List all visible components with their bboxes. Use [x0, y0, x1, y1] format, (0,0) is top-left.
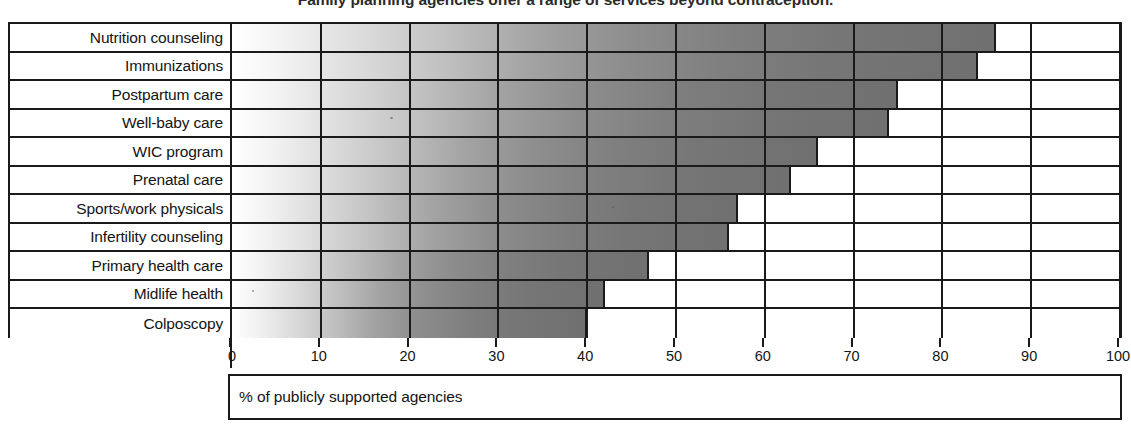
category-cell: Prenatal care	[10, 167, 232, 194]
category-cell: Well-baby care	[10, 110, 232, 137]
category-label: Sports/work physicals	[76, 201, 223, 217]
chart-row: Immunizations	[10, 53, 1120, 82]
gridline	[497, 53, 499, 80]
gridline	[320, 309, 322, 338]
gridline	[1119, 138, 1120, 165]
gridline	[675, 224, 677, 251]
gridline	[853, 167, 855, 194]
gridline	[1030, 110, 1032, 137]
x-tick	[229, 338, 231, 347]
gridline	[1030, 281, 1032, 308]
gridline	[941, 252, 943, 279]
bar	[232, 224, 729, 251]
gridline	[1119, 24, 1120, 51]
gridline	[941, 53, 943, 80]
gridline	[586, 24, 588, 51]
gridline	[675, 138, 677, 165]
chart-figure: Family planning agencies offer a range o…	[0, 0, 1131, 429]
chart-row: Postpartum care	[10, 81, 1120, 110]
gridline	[764, 281, 766, 308]
category-cell: Midlife health	[10, 281, 232, 308]
gridline	[1030, 24, 1032, 51]
gridline	[1030, 138, 1032, 165]
bar-track	[232, 138, 1120, 165]
gridline	[320, 281, 322, 308]
x-axis-label-box: % of publicly supported agencies	[228, 374, 1122, 420]
gridline	[497, 195, 499, 222]
gridline	[941, 224, 943, 251]
category-cell: Primary health care	[10, 252, 232, 279]
gridline	[586, 281, 588, 308]
chart-row: Colposcopy	[10, 309, 1120, 338]
x-tick	[495, 338, 497, 347]
gridline	[497, 281, 499, 308]
chart-title: Family planning agencies offer a range o…	[0, 0, 1131, 9]
category-label: Midlife health	[134, 286, 223, 302]
bar-track	[232, 281, 1120, 308]
gridline	[941, 138, 943, 165]
gridline	[586, 195, 588, 222]
gridline	[853, 24, 855, 51]
x-tick	[851, 338, 853, 347]
chart-row: Infertility counseling	[10, 224, 1120, 253]
gridline	[1119, 167, 1120, 194]
gridline	[675, 252, 677, 279]
bar	[232, 195, 738, 222]
gridline	[409, 53, 411, 80]
bar	[232, 281, 605, 308]
gridline	[764, 309, 766, 338]
chart-row: Well-baby care	[10, 110, 1120, 139]
gridline	[409, 252, 411, 279]
gridline	[586, 138, 588, 165]
gridline	[853, 110, 855, 137]
gridline	[675, 24, 677, 51]
gridline	[586, 252, 588, 279]
gridline	[764, 110, 766, 137]
scan-speck	[390, 117, 393, 119]
gridline	[675, 281, 677, 308]
chart-row: Nutrition counseling	[10, 24, 1120, 53]
bar-track	[232, 224, 1120, 251]
category-cell: Sports/work physicals	[10, 195, 232, 222]
gridline	[853, 195, 855, 222]
x-axis: 0102030405060708090100	[222, 338, 1122, 368]
gridline	[1119, 81, 1120, 108]
gridline	[586, 167, 588, 194]
gridline	[675, 309, 677, 338]
gridline	[1030, 309, 1032, 338]
gridline	[853, 138, 855, 165]
x-tick-label: 40	[577, 348, 593, 364]
x-tick	[673, 338, 675, 347]
x-tick	[1117, 338, 1119, 347]
x-tick-label: 30	[488, 348, 504, 364]
gridline	[497, 309, 499, 338]
chart-row: Primary health care	[10, 252, 1120, 281]
gridline	[409, 309, 411, 338]
x-tick-label: 50	[666, 348, 682, 364]
x-tick	[407, 338, 409, 347]
gridline	[675, 53, 677, 80]
chart-row: WIC program	[10, 138, 1120, 167]
gridline	[409, 81, 411, 108]
gridline	[497, 138, 499, 165]
gridline	[1030, 81, 1032, 108]
gridline	[853, 281, 855, 308]
gridline	[941, 167, 943, 194]
gridline	[764, 167, 766, 194]
gridline	[675, 81, 677, 108]
gridline	[1030, 252, 1032, 279]
gridline	[409, 138, 411, 165]
gridline	[941, 24, 943, 51]
x-tick-label: 60	[755, 348, 771, 364]
gridline	[586, 224, 588, 251]
gridline	[497, 81, 499, 108]
gridline	[497, 110, 499, 137]
gridline	[409, 24, 411, 51]
gridline	[853, 309, 855, 338]
category-label: Infertility counseling	[90, 229, 223, 245]
gridline	[497, 167, 499, 194]
x-tick-label: 70	[844, 348, 860, 364]
gridline	[941, 195, 943, 222]
gridline	[320, 81, 322, 108]
gridline	[1119, 224, 1120, 251]
